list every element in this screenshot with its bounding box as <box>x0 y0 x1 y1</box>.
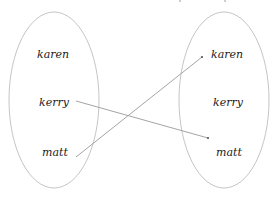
domain-element-kerry: kerry <box>39 96 70 109</box>
arrowhead-dot-karen <box>201 56 203 58</box>
codomain-element-kerry: kerry <box>213 96 244 109</box>
domain-element-matt: matt <box>42 146 68 159</box>
cropped-top-text-remnant <box>180 0 225 2</box>
arrowhead-dot-matt <box>207 137 209 139</box>
codomain-element-matt: matt <box>216 146 242 159</box>
codomain-element-karen: karen <box>211 48 243 61</box>
mapping-diagram: karen kerry matt karen kerry matt <box>0 0 275 197</box>
mapping-arrow-matt-to-karen <box>76 57 202 157</box>
domain-element-karen: karen <box>37 48 69 61</box>
